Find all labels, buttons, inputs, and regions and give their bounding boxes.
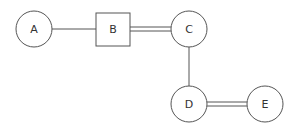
node-b-label: B (109, 23, 117, 36)
graph-diagram: A B C D E (0, 0, 301, 131)
node-d-label: D (185, 98, 193, 111)
node-e-label: E (262, 98, 269, 111)
node-c-label: C (185, 23, 193, 36)
node-a-label: A (30, 23, 38, 36)
